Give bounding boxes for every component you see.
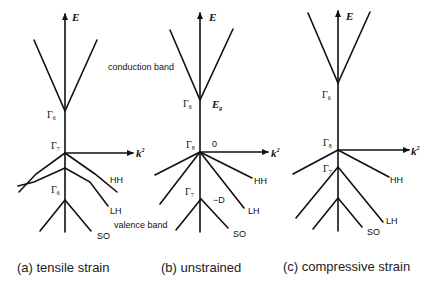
gamma7-label: Γ7 xyxy=(185,186,194,198)
lh-label: LH xyxy=(110,206,122,216)
k2-axis-label: k2 xyxy=(136,147,145,159)
gamma7-label: Γ7 xyxy=(51,140,60,152)
gamma8-label: Γ8 xyxy=(186,139,195,151)
lh-label: LH xyxy=(248,206,260,216)
conduction-band xyxy=(308,12,370,83)
band-gap-label: Eg xyxy=(211,98,222,111)
valence-band-label: valence band xyxy=(114,220,168,230)
hh-band-right xyxy=(338,150,389,177)
band-structure-diagram: E Γ6 k2 Γ7 Γ6 HH LH SO (a) tensile strai… xyxy=(0,0,427,284)
hh-label: HH xyxy=(110,175,123,185)
gamma6-split-label: Γ6 xyxy=(51,184,60,196)
lh-band-left xyxy=(296,167,338,218)
lh-band-left xyxy=(160,152,200,204)
energy-axis-label: E xyxy=(345,10,353,22)
gamma6-label: Γ6 xyxy=(322,89,331,101)
k2-axis-label: k2 xyxy=(411,145,420,157)
panel-tensile-strain: E Γ6 k2 Γ7 Γ6 HH LH SO (a) tensile strai… xyxy=(17,11,145,275)
caption-tensile: (a) tensile strain xyxy=(17,260,109,275)
hh-band-left xyxy=(19,153,65,192)
hh-band-left xyxy=(155,152,200,175)
so-label: SO xyxy=(233,229,246,239)
zero-energy-label: 0 xyxy=(212,139,217,149)
lh-band-right xyxy=(65,168,108,206)
gamma6-label: Γ6 xyxy=(183,98,192,110)
panel-unstrained: E Γ6 Eg k2 Γ8 0 Γ7 −D HH LH SO (b) unstr… xyxy=(155,11,280,275)
hh-band-right xyxy=(200,152,252,178)
caption-unstrained: (b) unstrained xyxy=(161,260,241,275)
conduction-band xyxy=(170,29,233,100)
conduction-band-label: conduction band xyxy=(108,62,174,72)
gamma6-label: Γ6 xyxy=(47,109,56,121)
panel-compressive-strain: E Γ6 k2 Γ8 Γ7 HH LH SO (c) compressive s… xyxy=(283,10,420,274)
energy-axis-label: E xyxy=(71,11,79,23)
lh-band-right xyxy=(338,167,383,222)
so-label: SO xyxy=(97,231,110,241)
energy-axis-label: E xyxy=(208,11,216,23)
gamma8-label: Γ8 xyxy=(323,137,332,149)
gamma7-label: Γ7 xyxy=(323,163,332,175)
split-off-energy-label: −D xyxy=(213,195,225,205)
hh-label: HH xyxy=(390,175,403,185)
k2-axis-label: k2 xyxy=(271,147,280,159)
hh-label: HH xyxy=(254,176,267,186)
caption-compressive: (c) compressive strain xyxy=(283,259,410,274)
lh-label: LH xyxy=(386,216,398,226)
so-label: SO xyxy=(367,227,380,237)
